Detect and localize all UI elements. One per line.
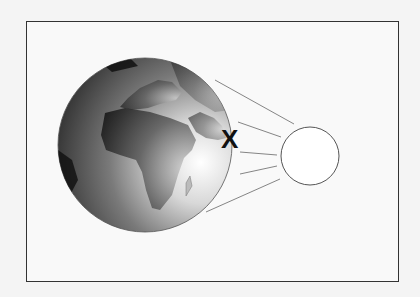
diagram-canvas [0, 0, 420, 297]
x-marker: X [221, 126, 238, 152]
earth-globe [58, 58, 232, 232]
sun-circle [281, 127, 339, 185]
